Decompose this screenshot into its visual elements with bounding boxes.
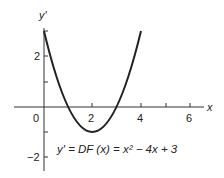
equation-annotation: y' = DF (x) = x² − 4x + 3	[56, 143, 178, 155]
origin-label: 0	[33, 112, 39, 124]
x-tick-label-4: 4	[137, 112, 143, 124]
x-tick-label-2: 2	[88, 112, 94, 124]
x-axis-label: x	[206, 101, 213, 113]
x-tick-label-6: 6	[186, 112, 192, 124]
x-ticks	[92, 103, 190, 107]
y-tick-label-2: 2	[34, 50, 40, 62]
y-tick-label-neg2: −2	[27, 151, 40, 163]
y-ticks	[44, 31, 48, 157]
y-axis-label: y'	[38, 9, 48, 21]
chart: y' x 0 2 4 6 2 −2 y' = DF (x) = x² − 4x …	[0, 0, 224, 178]
